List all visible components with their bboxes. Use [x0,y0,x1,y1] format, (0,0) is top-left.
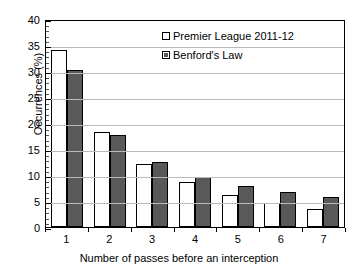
y-tick-major [46,177,51,178]
y-tick-minor [46,219,49,220]
bar [110,135,126,227]
bar [222,195,238,227]
y-tick-minor [46,130,49,131]
bar [152,162,168,227]
bar [136,164,152,227]
y-tick-minor [46,68,49,69]
y-tick-minor [46,182,49,183]
y-tick-minor [46,83,49,84]
y-tick-minor [46,26,49,27]
y-axis-tick-label: 30 [16,67,40,78]
gridline [46,203,344,204]
y-tick-minor [46,42,49,43]
bar [94,132,110,227]
legend-item: Premier League 2011-12 [162,28,294,44]
x-axis-tick-label: 7 [302,233,345,245]
x-axis-tick-label: 3 [131,233,174,245]
legend-label: Benford's Law [173,49,242,61]
y-tick-major [46,203,51,204]
y-axis-tick-label: 35 [16,41,40,52]
y-tick-major [46,125,51,126]
gridline [46,177,344,178]
y-axis-tick-label: 10 [16,171,40,182]
y-tick-minor [46,141,49,142]
y-axis-tick-label: 25 [16,93,40,104]
y-tick-major [46,99,51,100]
y-tick-minor [46,208,49,209]
y-tick-minor [46,146,49,147]
x-tick [259,228,260,232]
x-tick [174,228,175,232]
y-tick-major [46,73,51,74]
y-tick-minor [46,198,49,199]
bar-chart: Occurrences (%) 0510152025303540 1234567… [0,0,358,277]
bar [179,182,195,227]
y-tick-minor [46,115,49,116]
x-tick [345,228,346,232]
y-tick-minor [46,31,49,32]
x-axis-title: Number of passes before an interception [0,252,358,264]
bar [323,197,339,227]
bar [264,203,280,227]
x-axis-tick-label: 5 [216,233,259,245]
gridline [46,99,344,100]
y-tick-minor [46,172,49,173]
y-tick-minor [46,135,49,136]
bar [307,209,323,227]
y-tick-minor [46,193,49,194]
filled-square-swatch-icon [162,51,170,59]
y-axis-tick-label: 20 [16,119,40,130]
y-tick-major [46,151,51,152]
x-axis-tick-label: 2 [88,233,131,245]
y-tick-minor [46,120,49,121]
legend-label: Premier League 2011-12 [173,30,294,42]
gridline [46,73,344,74]
x-tick [45,228,46,232]
y-tick-minor [46,156,49,157]
x-tick [131,228,132,232]
x-tick [216,228,217,232]
y-tick-minor [46,89,49,90]
bar [238,186,254,227]
gridline [46,151,344,152]
x-axis-tick-label: 1 [45,233,88,245]
chart-legend: Premier League 2011-12Benford's Law [162,28,294,66]
y-tick-minor [46,94,49,95]
y-axis-tick-label: 15 [16,145,40,156]
y-axis-tick-labels: 0510152025303540 [16,20,40,228]
y-tick-minor [46,104,49,105]
legend-item: Benford's Law [162,47,294,63]
y-tick-minor [46,63,49,64]
bar-group [301,21,344,227]
gridline [46,125,344,126]
y-axis-tick-label: 5 [16,197,40,208]
y-tick-major [46,47,51,48]
y-tick-minor [46,109,49,110]
x-tick [88,228,89,232]
y-tick-minor [46,57,49,58]
bar-group [46,21,89,227]
x-axis-tick-labels: 1234567 [45,233,345,245]
y-tick-minor [46,52,49,53]
y-axis-tick-label: 0 [16,223,40,234]
y-tick-minor [46,187,49,188]
y-tick-minor [46,37,49,38]
y-tick-minor [46,213,49,214]
x-axis-tick-label: 4 [174,233,217,245]
bar [195,177,211,227]
y-tick-minor [46,167,49,168]
y-tick-minor [46,161,49,162]
x-axis-tick-label: 6 [259,233,302,245]
bar-group [89,21,132,227]
y-tick-minor [46,78,49,79]
bar [51,50,67,227]
x-tick [302,228,303,232]
y-tick-minor [46,224,49,225]
y-axis-tick-label: 40 [16,15,40,26]
y-tick-major [46,21,51,22]
bar [280,192,296,227]
open-square-swatch-icon [162,32,170,40]
